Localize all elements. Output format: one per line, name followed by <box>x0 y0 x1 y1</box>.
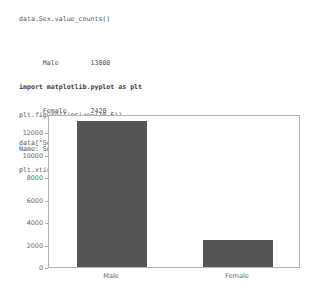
y-axis-tick-label: 0 <box>39 264 43 272</box>
y-axis-tick-mark <box>45 133 48 134</box>
y-axis-tick-mark <box>45 156 48 157</box>
y-axis-tick-mark <box>45 178 48 179</box>
y-axis-tick-label: 10000 <box>23 152 43 160</box>
code-line-import: import matplotlib.pyplot as plt <box>19 83 190 92</box>
bar-male <box>77 121 146 267</box>
y-axis-tick-label: 2000 <box>27 242 43 250</box>
code-expression-line: data.Sex.value_counts() <box>19 15 110 24</box>
y-axis-tick-label: 6000 <box>27 197 43 205</box>
plot-frame <box>48 115 300 268</box>
y-axis-tick-label: 8000 <box>27 174 43 182</box>
y-axis-tick-label: 12000 <box>23 129 43 137</box>
y-axis-tick-mark <box>45 223 48 224</box>
y-axis-tick-mark <box>45 268 48 269</box>
bar-chart-figure: 020004000600080001000012000MaleFemale <box>10 104 311 290</box>
notebook-screenshot: data.Sex.value_counts() Male 13000 Femal… <box>0 0 321 294</box>
y-axis-tick-label: 4000 <box>27 219 43 227</box>
y-axis-tick-mark <box>45 201 48 202</box>
plot-area <box>49 116 299 267</box>
bar-female <box>203 240 272 267</box>
x-axis-tick-label: Male <box>103 272 119 280</box>
x-axis-tick-label: Female <box>225 272 249 280</box>
y-axis-tick-mark <box>45 246 48 247</box>
